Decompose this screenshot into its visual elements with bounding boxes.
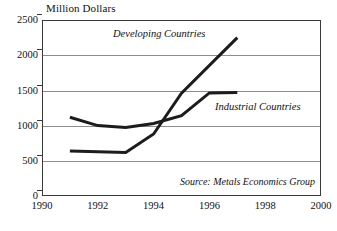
- source-note: Source: Metals Economics Group: [150, 176, 315, 188]
- series-line-developing: [70, 38, 237, 153]
- series-label-developing: Developing Countries: [113, 28, 205, 40]
- line-chart: Million Dollars 2500 2000 1500 1000 500 …: [0, 0, 337, 231]
- xtick-1996: 1996: [187, 200, 231, 212]
- xtick-1994: 1994: [132, 200, 176, 212]
- series-label-industrial: Industrial Countries: [215, 101, 300, 113]
- xtick-2000: 2000: [299, 200, 337, 212]
- xtick-1990: 1990: [20, 200, 64, 212]
- xtick-1992: 1992: [76, 200, 120, 212]
- xtick-1998: 1998: [243, 200, 287, 212]
- series-line-industrial: [70, 93, 237, 128]
